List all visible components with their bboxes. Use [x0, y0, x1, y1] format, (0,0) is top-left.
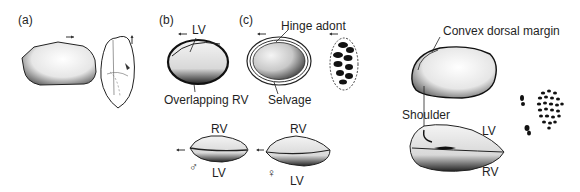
label-right-rv: RV — [482, 165, 498, 179]
arrow-left-icon — [257, 33, 266, 36]
arrow-left-icon — [176, 149, 185, 152]
shell-b — [168, 38, 228, 92]
label-hinge-adont: Hinge adont — [281, 19, 346, 33]
arrow-up-icon — [131, 35, 134, 44]
shell-right-lateral — [412, 37, 496, 112]
label-selvage: Selvage — [268, 93, 311, 107]
shell-a-lateral — [22, 42, 96, 85]
panel-label-a: (a) — [18, 13, 33, 27]
arrow-left-icon — [178, 33, 187, 36]
label-convex-dorsal-margin: Convex dorsal margin — [443, 24, 560, 38]
panel-label-c: (c) — [239, 13, 253, 27]
arrow-right-icon — [66, 36, 74, 39]
label-female-rv: RV — [290, 122, 306, 136]
label-right-lv: LV — [482, 124, 496, 138]
label-male-lv: LV — [212, 166, 226, 180]
shell-female-dorsal — [266, 136, 330, 166]
label-overlapping-rv: Overlapping RV — [164, 93, 249, 107]
label-lv: LV — [192, 23, 206, 37]
shell-c — [247, 30, 311, 94]
arrow-left-icon — [256, 149, 264, 152]
muscle-scar-pattern — [329, 33, 358, 91]
label-shoulder: Shoulder — [402, 108, 450, 122]
female-symbol: ♀ — [267, 166, 276, 180]
muscle-scar-cluster — [520, 89, 564, 135]
male-symbol: ♂ — [189, 160, 198, 174]
label-male-rv: RV — [211, 122, 227, 136]
label-female-lv: LV — [290, 174, 304, 188]
panel-label-b: (b) — [159, 13, 174, 27]
shell-male-dorsal — [190, 136, 248, 162]
shell-a-dorsal — [101, 36, 135, 108]
